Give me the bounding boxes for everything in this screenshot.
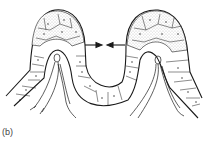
right-fibers [130, 56, 184, 118]
epithelium-fold-diagram [0, 0, 205, 142]
right-arrow [107, 43, 125, 48]
panel-label: (b) [2, 127, 13, 137]
left-arrow [85, 43, 102, 48]
